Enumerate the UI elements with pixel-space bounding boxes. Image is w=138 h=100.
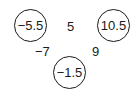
node-bottom-value: −1.5 <box>57 65 83 80</box>
node-right: 10.5 <box>97 9 130 42</box>
edge-left-right-value: 5 <box>67 20 74 33</box>
node-left-value: −5.5 <box>18 18 44 33</box>
node-bottom: −1.5 <box>53 56 86 89</box>
node-left: −5.5 <box>14 9 47 42</box>
node-right-value: 10.5 <box>101 18 126 33</box>
edge-right-bottom-value: 9 <box>92 45 99 58</box>
edge-left-bottom-value: −7 <box>35 45 50 58</box>
